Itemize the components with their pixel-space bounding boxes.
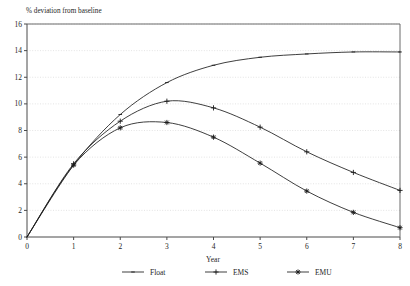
data-point-emu [118,125,123,130]
x-axis-tick-label: 3 [165,242,169,251]
series-line-ems [27,101,400,237]
data-point-emu [211,135,216,140]
y-axis-tick-label: 6 [18,153,22,162]
y-axis-tick-label: 2 [18,206,22,215]
data-point-emu [397,225,402,230]
legend-marker-emu [295,269,300,274]
x-axis-tick-label: 5 [258,242,262,251]
legend-item-float[interactable]: Float [122,268,166,277]
legend-marker-ems [213,269,218,274]
x-axis-tick-label: 8 [398,242,402,251]
y-axis-tick-label: 10 [15,99,23,108]
legend-label: Float [150,268,166,277]
y-axis-tick-labels: 0246810121416 [15,20,23,242]
y-axis-tick-label: 4 [18,179,22,188]
chart-legend: FloatEMSEMU [122,268,332,277]
data-point-emu [351,210,356,215]
data-point-ems [258,125,263,130]
x-axis-tick-label: 0 [25,242,29,251]
data-point-emu [304,188,309,193]
data-point-emu [164,120,169,125]
legend-label: EMS [233,268,248,277]
legend-item-ems[interactable]: EMS [205,268,248,277]
x-axis-tick-labels: 012345678 [25,242,402,251]
x-axis-tick-label: 7 [352,242,356,251]
data-point-ems [351,170,356,175]
x-axis-title: Year [206,255,220,264]
legend-item-emu[interactable]: EMU [287,268,332,277]
plot-frame [27,24,400,237]
y-axis-tick-label: 14 [15,46,23,55]
data-point-ems [164,99,169,104]
x-axis-tick-label: 2 [118,242,122,251]
data-point-emu [258,161,263,166]
chart-container: 0246810121416 012345678 % deviation from… [0,0,410,286]
y-axis-tick-label: 12 [15,73,23,82]
markers-group [71,52,403,230]
x-axis-tick-label: 6 [305,242,309,251]
line-chart: 0246810121416 012345678 % deviation from… [0,0,410,286]
y-axis-tick-label: 0 [18,233,22,242]
data-point-ems [118,119,123,124]
legend-label: EMU [315,268,332,277]
x-axis-tick-label: 1 [72,242,76,251]
plot-inline-title: % deviation from baseline [26,7,102,15]
y-axis-tick-label: 8 [18,126,22,135]
data-point-ems [211,105,216,110]
data-point-emu [71,163,76,168]
y-axis-tick-label: 16 [15,20,23,29]
axis-ticks-group [24,24,400,240]
x-axis-tick-label: 4 [212,242,216,251]
data-point-ems [397,188,402,193]
series-group [27,52,400,237]
series-line-float [27,52,400,237]
data-point-ems [304,149,309,154]
